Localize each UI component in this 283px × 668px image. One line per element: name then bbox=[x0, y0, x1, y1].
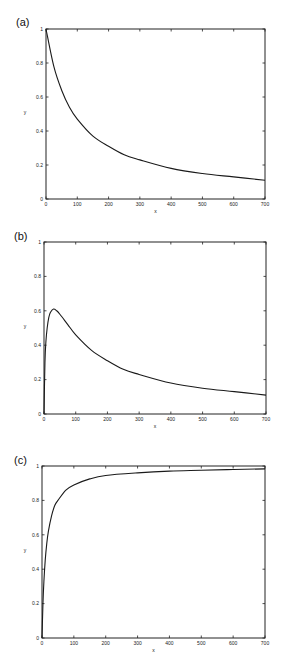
x-tick-label: 100 bbox=[70, 640, 79, 646]
y-tick-label: 0.4 bbox=[32, 566, 39, 572]
y-tick-label: 0.2 bbox=[32, 600, 39, 606]
x-tick-label: 700 bbox=[261, 640, 270, 646]
y-tick-label: 0.2 bbox=[36, 162, 43, 168]
x-axis-label: x bbox=[154, 423, 157, 429]
x-tick-label: 300 bbox=[135, 416, 144, 422]
x-tick-label: 300 bbox=[133, 640, 142, 646]
x-tick-label: 500 bbox=[198, 416, 207, 422]
x-tick-label: 100 bbox=[72, 416, 81, 422]
y-axis-label: y bbox=[24, 547, 27, 553]
y-tick-label: 0 bbox=[38, 411, 41, 417]
x-tick-label: 100 bbox=[73, 201, 82, 207]
y-tick-label: 0.4 bbox=[34, 342, 41, 348]
y-tick-label: 0 bbox=[36, 635, 39, 641]
x-tick-label: 0 bbox=[45, 201, 48, 207]
x-tick-label: 500 bbox=[197, 640, 206, 646]
y-tick-label: 1 bbox=[38, 239, 41, 245]
x-tick-label: 400 bbox=[165, 640, 174, 646]
x-tick-label: 600 bbox=[229, 640, 238, 646]
x-tick-label: 600 bbox=[230, 416, 239, 422]
y-tick-label: 0.6 bbox=[34, 308, 41, 314]
y-axis-label: y bbox=[24, 323, 27, 329]
data-curve bbox=[46, 29, 265, 180]
chart-a: 010020030040050060070000.20.40.60.81xy bbox=[0, 0, 283, 222]
y-tick-label: 0.6 bbox=[32, 532, 39, 538]
data-curve bbox=[42, 469, 265, 638]
x-tick-label: 200 bbox=[104, 201, 113, 207]
panel-a: (a) 010020030040050060070000.20.40.60.81… bbox=[0, 0, 283, 222]
y-tick-label: 0.2 bbox=[34, 376, 41, 382]
y-tick-label: 0.8 bbox=[32, 497, 39, 503]
y-axis-label: y bbox=[24, 109, 27, 115]
x-tick-label: 400 bbox=[167, 416, 176, 422]
x-tick-label: 700 bbox=[262, 416, 271, 422]
x-tick-label: 0 bbox=[41, 640, 44, 646]
plot-frame bbox=[42, 466, 265, 638]
panel-label-b: (b) bbox=[14, 230, 27, 242]
x-axis-label: x bbox=[152, 647, 155, 653]
data-curve bbox=[44, 309, 266, 414]
panel-label-c: (c) bbox=[14, 454, 27, 466]
x-tick-label: 200 bbox=[102, 640, 111, 646]
x-tick-label: 300 bbox=[136, 201, 145, 207]
y-tick-label: 0.8 bbox=[34, 273, 41, 279]
x-tick-label: 0 bbox=[43, 416, 46, 422]
y-tick-label: 1 bbox=[40, 26, 43, 32]
x-tick-label: 400 bbox=[167, 201, 176, 207]
x-axis-label: x bbox=[154, 208, 157, 214]
y-tick-label: 0 bbox=[40, 196, 43, 202]
plot-frame bbox=[44, 242, 266, 414]
x-tick-label: 600 bbox=[230, 201, 239, 207]
x-tick-label: 700 bbox=[261, 201, 270, 207]
x-tick-label: 500 bbox=[198, 201, 207, 207]
y-tick-label: 0.4 bbox=[36, 128, 43, 134]
plot-frame bbox=[46, 29, 265, 199]
y-tick-label: 0.6 bbox=[36, 94, 43, 100]
y-tick-label: 1 bbox=[36, 463, 39, 469]
y-tick-label: 0.8 bbox=[36, 60, 43, 66]
x-tick-label: 200 bbox=[103, 416, 112, 422]
